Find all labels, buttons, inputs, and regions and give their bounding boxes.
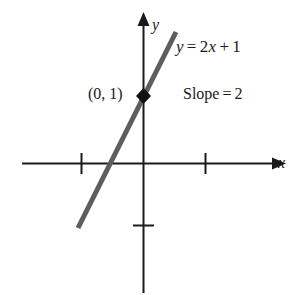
equation-constant: 1	[232, 37, 241, 56]
y-axis-label: y	[152, 17, 159, 33]
slope-equals-sign: =	[219, 85, 234, 102]
linear-graph-figure: y x y=2x+1 (0, 1) Slope=2	[0, 0, 297, 295]
equation-equals-sign: =	[184, 37, 200, 56]
y-axis-arrowhead	[138, 12, 150, 26]
equation-annotation: y=2x+1	[176, 38, 241, 55]
x-axis-label: x	[278, 155, 285, 171]
plotted-line	[78, 32, 176, 228]
coordinate-plane	[0, 0, 297, 295]
slope-word: Slope	[183, 85, 219, 102]
equation-plus-sign: +	[216, 37, 232, 56]
point-coordinate-annotation: (0, 1)	[88, 86, 123, 102]
equation-y-term: y	[176, 37, 184, 56]
equation-coefficient: 2	[200, 37, 209, 56]
slope-annotation: Slope=2	[183, 86, 242, 102]
slope-value: 2	[234, 85, 242, 102]
